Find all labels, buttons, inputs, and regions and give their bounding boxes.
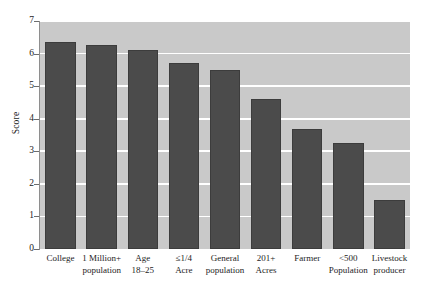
y-axis-tick-mark bbox=[34, 184, 39, 185]
bar bbox=[45, 42, 75, 249]
y-axis-tick-mark bbox=[34, 54, 39, 55]
y-axis-tick-mark bbox=[34, 86, 39, 87]
y-axis-tick-mark bbox=[34, 21, 39, 22]
x-axis-tick-label: Age 18–25 bbox=[119, 253, 166, 276]
bar bbox=[251, 99, 281, 249]
y-axis-tick-label: 4 bbox=[20, 114, 34, 124]
bar bbox=[333, 143, 363, 249]
bar bbox=[86, 45, 116, 249]
x-axis-tick-label: Livestock producer bbox=[366, 253, 413, 276]
y-axis-tick-label: 0 bbox=[20, 244, 34, 254]
y-axis-tick-labels: 01234567 bbox=[20, 21, 34, 249]
y-axis-tick-label: 6 bbox=[20, 49, 34, 59]
x-axis-tick-label: General population bbox=[201, 253, 248, 276]
bars-group bbox=[40, 21, 410, 249]
plot-area bbox=[40, 21, 410, 249]
y-axis-tick-mark bbox=[34, 216, 39, 217]
x-axis-tick-label: Farmer bbox=[284, 253, 331, 265]
x-axis-tick-label: College bbox=[37, 253, 84, 265]
y-axis-tick-mark bbox=[34, 249, 39, 250]
bar-chart: Score 01234567 College1 Million+ populat… bbox=[0, 0, 432, 292]
y-axis-tick-label: 5 bbox=[20, 81, 34, 91]
y-axis-tick-mark bbox=[34, 119, 39, 120]
y-axis-tick-mark bbox=[34, 151, 39, 152]
bar bbox=[210, 70, 240, 249]
x-axis-tick-label: <500 Population bbox=[325, 253, 372, 276]
x-axis-tick-label: ≤1/4 Acre bbox=[160, 253, 207, 276]
bar bbox=[374, 200, 404, 249]
x-axis-tick-label: 1 Million+ population bbox=[78, 253, 125, 276]
bar bbox=[128, 50, 158, 249]
y-axis-tick-label: 1 bbox=[20, 212, 34, 222]
y-axis-tick-label: 7 bbox=[20, 16, 34, 26]
y-axis-tick-label: 3 bbox=[20, 147, 34, 157]
y-axis-tick-label: 2 bbox=[20, 179, 34, 189]
x-axis-tick-labels: College1 Million+ populationAge 18–25≤1/… bbox=[40, 253, 410, 292]
x-axis-tick-label: 201+ Acres bbox=[243, 253, 290, 276]
bar bbox=[169, 63, 199, 249]
bar bbox=[292, 129, 322, 250]
